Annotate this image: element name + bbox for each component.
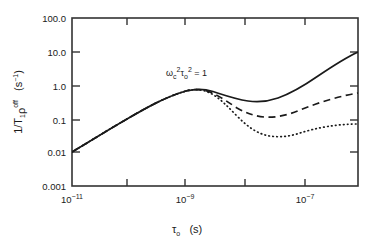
x-tick-labels: 10−11 10−9 10−7	[61, 193, 314, 206]
annotation-equals: = 1	[194, 68, 207, 78]
y-tick-label: 10.0	[48, 47, 67, 58]
svg-text:10−7: 10−7	[296, 193, 315, 206]
y-axis-off-sup: off	[12, 100, 19, 108]
y-axis-1overT: 1/T	[12, 118, 24, 134]
x-tick-label-group: 10−7	[296, 193, 315, 206]
y-tick-label: 0.01	[48, 147, 67, 158]
y-tick-label: 1.0	[53, 81, 66, 92]
y-tick-label: 100.0	[42, 13, 66, 24]
x-tick-exponent: −11	[72, 193, 83, 200]
x-axis-unit: (s)	[189, 223, 202, 235]
x-tick-base: 10	[296, 194, 307, 205]
annotation-omega-sub: c	[173, 73, 177, 80]
chart-svg: 100.0 10.0 1.0 0.1 0.01 0.001 10−11 10−9…	[0, 0, 374, 244]
x-axis-title: τo (s)	[172, 223, 202, 237]
x-tick-label-group: 10−11	[61, 193, 83, 206]
x-tick-exponent: −9	[186, 193, 194, 200]
svg-text:τo (s): τo (s)	[172, 223, 202, 237]
svg-text:10−9: 10−9	[176, 193, 195, 206]
plot-frame	[72, 18, 358, 186]
x-tick-exponent: −7	[306, 193, 314, 200]
x-tick-label-group: 10−9	[176, 193, 195, 206]
y-axis-title: 1/T1ρoff (s−1)	[12, 70, 28, 134]
svg-text:1/T1ρoff (s−1): 1/T1ρoff (s−1)	[12, 70, 28, 134]
figure-container: 100.0 10.0 1.0 0.1 0.01 0.001 10−11 10−9…	[0, 0, 374, 244]
svg-text:10−11: 10−11	[61, 193, 83, 206]
y-tick-label: 0.1	[53, 115, 66, 126]
y-tick-label: 0.001	[42, 181, 66, 192]
annotation-tau-sub: o	[184, 73, 188, 80]
annotation-omega: ω	[166, 68, 173, 78]
x-tick-base: 10	[176, 194, 187, 205]
y-axis-unit-exponent: −1	[12, 74, 19, 82]
y-axis-unit-close: )	[12, 70, 24, 74]
y-tick-labels: 100.0 10.0 1.0 0.1 0.01 0.001	[42, 13, 66, 192]
x-tick-base: 10	[61, 194, 72, 205]
